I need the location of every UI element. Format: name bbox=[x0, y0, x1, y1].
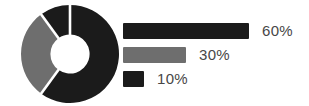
donut-chart-figure: 60% 30% 10% bbox=[0, 0, 309, 106]
legend-label-60: 60% bbox=[262, 23, 293, 39]
legend-item-30: 30% bbox=[123, 47, 293, 63]
legend-bar-10 bbox=[123, 71, 144, 87]
donut-chart bbox=[0, 0, 140, 106]
legend-bar-30 bbox=[123, 47, 186, 63]
legend-item-10: 10% bbox=[123, 71, 293, 87]
legend-label-10: 10% bbox=[157, 71, 188, 87]
legend-bar-60 bbox=[123, 23, 249, 39]
legend: 60% 30% 10% bbox=[123, 23, 293, 87]
legend-label-30: 30% bbox=[199, 47, 230, 63]
legend-item-60: 60% bbox=[123, 23, 293, 39]
